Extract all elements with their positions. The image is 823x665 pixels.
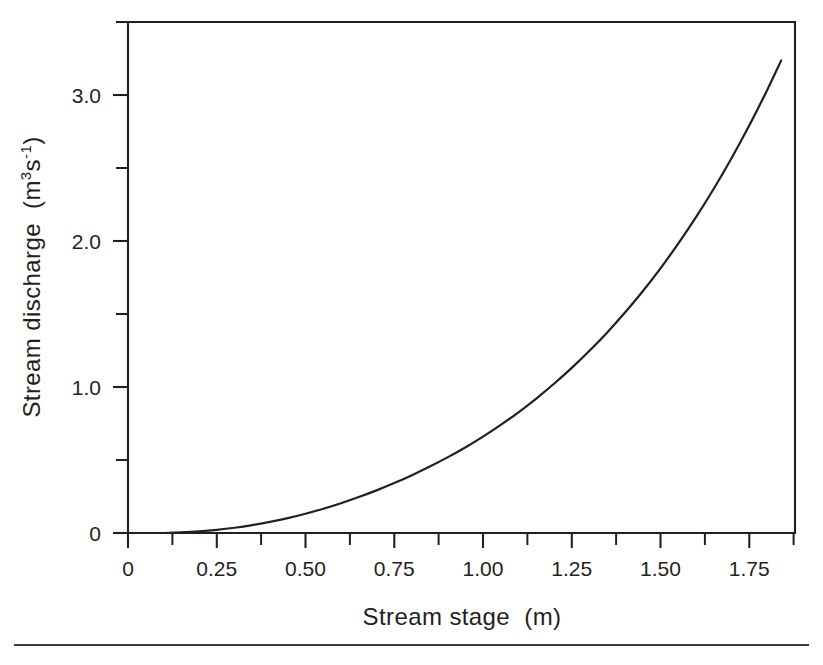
- x-tick-label-075: 0.75: [374, 557, 415, 580]
- x-axis-title: Stream stage (m): [363, 603, 562, 630]
- y-axis-title-units-s: s: [18, 159, 45, 171]
- y-tick-label-0: 0: [89, 522, 101, 545]
- y-axis-title-exponent-3: 3: [17, 171, 34, 180]
- y-tick-label-20: 2.0: [72, 230, 101, 253]
- x-tick-label-125: 1.25: [551, 557, 592, 580]
- y-tick-label-30: 3.0: [72, 84, 101, 107]
- y-axis-title: Stream discharge (m3s-1): [17, 136, 45, 417]
- y-axis-title-units-open: (m: [18, 180, 45, 209]
- x-axis-title-units: (m): [524, 603, 561, 630]
- x-tick-label-150: 1.50: [640, 557, 681, 580]
- x-tick-label-050: 0.50: [285, 557, 326, 580]
- x-tick-label-175: 1.75: [729, 557, 770, 580]
- y-axis-title-main: Stream discharge: [18, 223, 45, 418]
- footer-divider-rule: [14, 644, 809, 646]
- x-tick-label-025: 0.25: [196, 557, 237, 580]
- rating-curve-line: [164, 60, 782, 533]
- y-tick-label-10: 1.0: [72, 376, 101, 399]
- x-axis-title-main: Stream stage: [363, 603, 511, 630]
- y-axis-title-units-close: ): [18, 136, 45, 144]
- figure-container: 0 0.25 0.50 0.75 1.00 1.25 1.50 1.75 0 1…: [0, 0, 823, 665]
- plot-frame: [128, 22, 795, 533]
- stream-rating-curve-chart: 0 0.25 0.50 0.75 1.00 1.25 1.50 1.75 0 1…: [0, 0, 823, 665]
- y-axis-title-exponent-minus1: -1: [17, 145, 34, 159]
- x-tick-label-100: 1.00: [463, 557, 504, 580]
- x-tick-label-0: 0: [122, 557, 134, 580]
